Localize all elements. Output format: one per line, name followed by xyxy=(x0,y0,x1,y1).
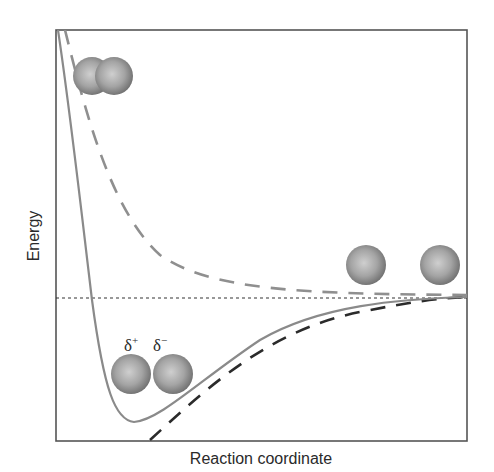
delta-symbol: δ xyxy=(153,336,161,355)
separated-atoms-icon xyxy=(346,245,460,285)
energy-diagram xyxy=(0,0,494,472)
partial-negative-charge-label: δ− xyxy=(153,334,167,356)
y-axis-label: Energy xyxy=(25,211,43,262)
polar-bonded-atoms-icon xyxy=(111,354,193,394)
plus-sign: + xyxy=(132,334,138,346)
delta-symbol: δ xyxy=(124,336,132,355)
x-axis-label: Reaction coordinate xyxy=(0,450,494,468)
minus-sign: − xyxy=(161,334,167,346)
overlapping-atoms-icon xyxy=(73,57,133,95)
partial-positive-charge-label: δ+ xyxy=(124,334,138,356)
